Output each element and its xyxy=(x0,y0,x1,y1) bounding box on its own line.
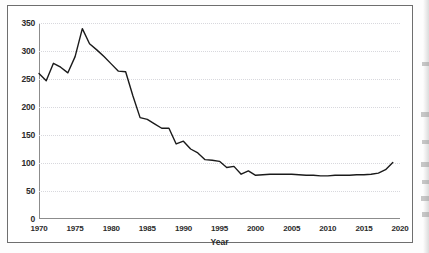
scan-speck xyxy=(421,112,429,117)
y-tick-label-50: 50 xyxy=(26,186,35,196)
y-tick-label-300: 300 xyxy=(21,46,35,56)
y-tick-label-350: 350 xyxy=(21,18,35,28)
x-tick-label-1995: 1995 xyxy=(211,224,228,233)
y-tick-label-100: 100 xyxy=(21,158,35,168)
scan-speck xyxy=(421,162,429,167)
y-tick-label-250: 250 xyxy=(21,74,35,84)
plot-area: 050100150200250300350 197019751980198519… xyxy=(39,23,400,219)
x-tick-label-2005: 2005 xyxy=(283,224,300,233)
y-tick-label-200: 200 xyxy=(21,102,35,112)
x-tick-label-1985: 1985 xyxy=(139,224,156,233)
x-axis-title: Year xyxy=(39,237,400,247)
y-tick-label-150: 150 xyxy=(21,130,35,140)
x-tick-label-1990: 1990 xyxy=(175,224,192,233)
figure-frame: 050100150200250300350 197019751980198519… xyxy=(7,5,413,243)
scan-speck xyxy=(422,62,429,66)
scanned-page: 050100150200250300350 197019751980198519… xyxy=(0,0,429,253)
line-series xyxy=(39,23,400,219)
x-tick-label-2020: 2020 xyxy=(392,224,409,233)
scan-speck xyxy=(422,212,429,217)
x-tick-label-2000: 2000 xyxy=(247,224,264,233)
x-tick-label-1975: 1975 xyxy=(67,224,84,233)
series-1-polyline xyxy=(39,29,393,176)
x-tick-label-1980: 1980 xyxy=(103,224,120,233)
scan-speck xyxy=(422,180,429,184)
scan-speck xyxy=(422,140,429,144)
x-tick-label-2015: 2015 xyxy=(355,224,372,233)
scan-speck xyxy=(421,196,429,201)
x-tick-label-1970: 1970 xyxy=(31,224,48,233)
y-tick-label-0: 0 xyxy=(30,214,35,224)
x-tick-label-2010: 2010 xyxy=(319,224,336,233)
